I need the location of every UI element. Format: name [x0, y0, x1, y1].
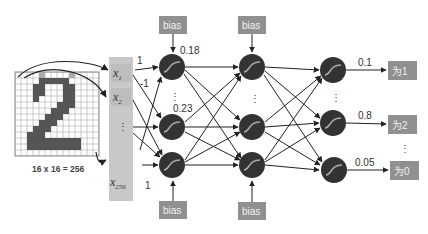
weight-label-2: -1	[140, 78, 149, 89]
neural-network-diagram: 16 x 16 = 256 x1 x2 ⋮ x256 1 -1 1	[0, 0, 428, 234]
neuron-node	[320, 57, 346, 83]
input-vector: x1 x2 ⋮ x256	[109, 57, 133, 201]
svg-text:bias: bias	[163, 205, 181, 216]
layer1-ellipsis: ⋮	[170, 91, 180, 102]
output-ellipsis: ⋮	[400, 143, 410, 154]
neuron-node	[159, 54, 185, 80]
output-value-2: 0.8	[358, 110, 372, 121]
output-value-1: 0.1	[358, 57, 372, 68]
svg-text:bias: bias	[242, 206, 260, 217]
svg-text:为2: 为2	[392, 120, 408, 131]
image-size-caption: 16 x 16 = 256	[32, 164, 85, 174]
digit-image: 16 x 16 = 256	[15, 72, 99, 174]
neuron-node	[159, 152, 185, 178]
input-ellipsis: ⋮	[118, 121, 128, 132]
output-box-1: 为1	[388, 61, 417, 80]
output-value-3: 0.05	[355, 157, 375, 168]
output-box-2: 为2	[388, 115, 417, 134]
weight-label-1: 1	[137, 55, 143, 66]
svg-text:为0: 为0	[394, 166, 410, 177]
neuron-nodes	[159, 54, 347, 183]
layer3-ellipsis: ⋮	[331, 92, 341, 103]
bias-bottom-2: bias	[238, 181, 266, 220]
layer2-ellipsis: ⋮	[250, 93, 260, 104]
bias-bottom-1: bias	[159, 181, 187, 219]
output-box-3: 为0	[390, 161, 419, 180]
neuron-node	[320, 110, 346, 136]
neuron-node	[159, 114, 185, 140]
hidden-connections-2	[264, 67, 322, 170]
weight-label-3: 1	[145, 180, 151, 191]
svg-text:为1: 为1	[392, 66, 408, 77]
neuron-node	[239, 114, 265, 140]
bias-top-2: bias	[238, 16, 266, 52]
svg-text:bias: bias	[163, 20, 181, 31]
neuron-node	[239, 152, 265, 178]
neuron-node	[239, 54, 265, 80]
hidden-value-mid: 0.23	[173, 103, 193, 114]
neuron-node	[321, 157, 347, 183]
hidden-value-top: 0.18	[180, 45, 200, 56]
hidden-connections-1	[184, 67, 241, 165]
svg-text:bias: bias	[242, 20, 260, 31]
